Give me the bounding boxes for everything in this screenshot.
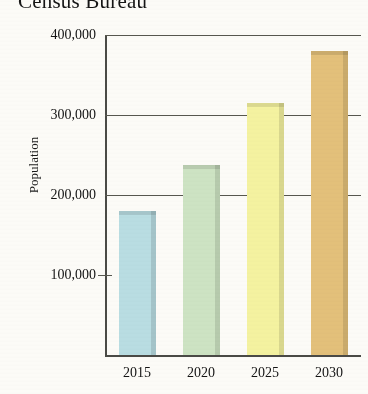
- x-tick-label: 2015: [123, 365, 151, 381]
- x-tick-label: 2025: [251, 365, 279, 381]
- y-axis-line: [105, 35, 107, 357]
- gridline-top: [105, 35, 361, 36]
- bar-2015: [119, 211, 156, 355]
- y-tick-label: 100,000: [51, 267, 97, 283]
- chart-title: Census Bureau: [18, 0, 147, 14]
- x-tick-label: 2020: [187, 365, 215, 381]
- y-axis-title: Population: [26, 115, 42, 215]
- plot-area: 100,000200,000300,000400,000 20152020202…: [105, 35, 361, 357]
- x-tick-label: 2030: [315, 365, 343, 381]
- bar-side-shading: [279, 103, 284, 355]
- bar-side-shading: [151, 211, 156, 355]
- y-tick-label: 300,000: [51, 107, 97, 123]
- y-tick-mark: [98, 275, 112, 276]
- bar-2020: [183, 165, 220, 355]
- y-tick-label: 200,000: [51, 187, 97, 203]
- bar-side-shading: [215, 165, 220, 355]
- x-axis-line: [105, 355, 361, 357]
- y-tick-label: 400,000: [51, 27, 97, 43]
- bar-2030: [311, 51, 348, 355]
- bar-2025: [247, 103, 284, 355]
- chart-figure: Census Bureau Population 100,000200,0003…: [0, 0, 368, 394]
- bar-side-shading: [343, 51, 348, 355]
